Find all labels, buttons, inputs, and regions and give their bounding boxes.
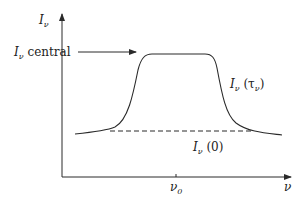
x-axis-label: ν xyxy=(284,180,291,194)
curve-label: Iν (τν) xyxy=(229,77,264,93)
line-profile-diagram: Iν Iν central Iν (τν) Iν (0) ν0 ν xyxy=(0,0,306,198)
y-axis-label: Iν xyxy=(38,13,49,29)
baseline-label: Iν (0) xyxy=(192,140,223,156)
profile-curve xyxy=(75,54,282,135)
central-label: Iν central xyxy=(13,45,71,61)
nu0-label: ν0 xyxy=(170,180,182,196)
